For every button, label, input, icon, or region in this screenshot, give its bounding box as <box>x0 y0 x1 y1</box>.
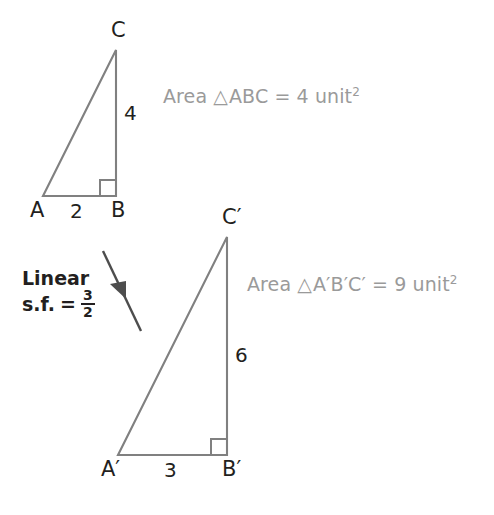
vertex-label-b: B <box>111 200 125 221</box>
vertex-label-c: C <box>111 20 126 41</box>
transformation-arrow <box>103 251 141 331</box>
area-label-a-b-c-prime-equals: = <box>372 273 388 295</box>
scale-factor-denominator: 2 <box>81 305 95 319</box>
scale-factor-abbrev: s.f. <box>22 294 55 315</box>
area-label-abc-value: 4 <box>297 85 309 107</box>
area-label-abc-equals: = <box>274 85 290 107</box>
vertex-label-b-prime: B′ <box>222 459 241 480</box>
area-label-a-b-c-prime-prefix: Area <box>247 273 291 295</box>
side-label-ab: 2 <box>70 201 83 221</box>
scale-factor-numerator: 3 <box>81 288 95 302</box>
area-label-abc-name: ABC <box>229 85 268 107</box>
right-angle-marker-b <box>100 180 116 196</box>
scale-factor-equals: = <box>55 294 76 315</box>
geometry-figure <box>0 0 494 515</box>
area-label-abc-exponent: 2 <box>352 85 360 99</box>
right-angle-marker-b-prime <box>211 439 227 455</box>
triangle-abc-outline <box>43 50 116 196</box>
scale-factor-word-linear: Linear <box>22 268 89 289</box>
triangle-abc <box>43 50 116 196</box>
area-label-a-b-c-prime: Area △A′B′C′ = 9 unit2 <box>247 274 457 294</box>
diagram-canvas: C A B 2 4 Area △ABC = 4 unit2 C′ A′ B′ 3… <box>0 0 494 515</box>
area-label-a-b-c-prime-exponent: 2 <box>450 273 458 287</box>
area-label-abc-prefix: Area <box>163 85 207 107</box>
area-label-abc: Area △ABC = 4 unit2 <box>163 86 360 106</box>
scale-factor-line-1: Linear <box>22 268 95 289</box>
vertex-label-a: A <box>30 200 44 221</box>
area-label-a-b-c-prime-name: A′B′C′ <box>313 273 366 295</box>
triangle-a-b-c-prime-outline <box>118 237 227 455</box>
vertex-label-c-prime: C′ <box>222 207 241 228</box>
area-label-abc-triangle-symbol: △ <box>213 85 229 107</box>
area-label-abc-unit: unit <box>315 85 352 107</box>
triangle-a-b-c-prime <box>118 237 227 455</box>
vertex-label-a-prime: A′ <box>101 459 120 480</box>
scale-factor-line-2: s.f. = 3 2 <box>22 289 95 320</box>
side-label-b-prime-c-prime: 6 <box>235 345 248 365</box>
side-label-a-prime-b-prime: 3 <box>164 460 177 480</box>
arrow-head <box>110 281 126 299</box>
scale-factor-fraction: 3 2 <box>81 288 95 319</box>
side-label-bc: 4 <box>124 103 137 123</box>
area-label-a-b-c-prime-unit: unit <box>412 273 449 295</box>
area-label-a-b-c-prime-triangle-symbol: △ <box>297 273 313 295</box>
linear-scale-factor-label: Linear s.f. = 3 2 <box>22 268 95 320</box>
area-label-a-b-c-prime-value: 9 <box>394 273 406 295</box>
